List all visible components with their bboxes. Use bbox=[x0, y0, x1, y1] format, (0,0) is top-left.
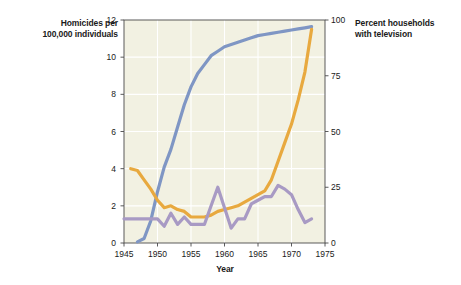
y-tick-label-right-50: 50 bbox=[331, 127, 353, 137]
y-tick-label-right-25: 25 bbox=[331, 182, 353, 192]
chart-figure: Homicides per 100,000 individuals Percen… bbox=[0, 0, 461, 285]
y-tick-label-left-12: 12 bbox=[96, 15, 116, 25]
y-tick-label-left-10: 10 bbox=[96, 52, 116, 62]
x-tick-label-1945: 1945 bbox=[107, 249, 141, 259]
y-tick-label-left-2: 2 bbox=[96, 201, 116, 211]
y-tick-label-left-6: 6 bbox=[96, 127, 116, 137]
y-tick-label-left-4: 4 bbox=[96, 164, 116, 174]
x-tick-label-1965: 1965 bbox=[241, 249, 275, 259]
y-tick-label-right-100: 100 bbox=[331, 15, 353, 25]
y-tick-label-right-75: 75 bbox=[331, 71, 353, 81]
x-tick-label-1950: 1950 bbox=[141, 249, 175, 259]
y-tick-label-right-0: 0 bbox=[331, 238, 353, 248]
x-tick-label-1975: 1975 bbox=[308, 249, 342, 259]
x-tick-label-1970: 1970 bbox=[275, 249, 309, 259]
plot-area bbox=[0, 0, 461, 285]
x-tick-label-1955: 1955 bbox=[174, 249, 208, 259]
x-tick-label-1960: 1960 bbox=[208, 249, 242, 259]
y-tick-label-left-8: 8 bbox=[96, 89, 116, 99]
y-tick-label-left-0: 0 bbox=[96, 238, 116, 248]
